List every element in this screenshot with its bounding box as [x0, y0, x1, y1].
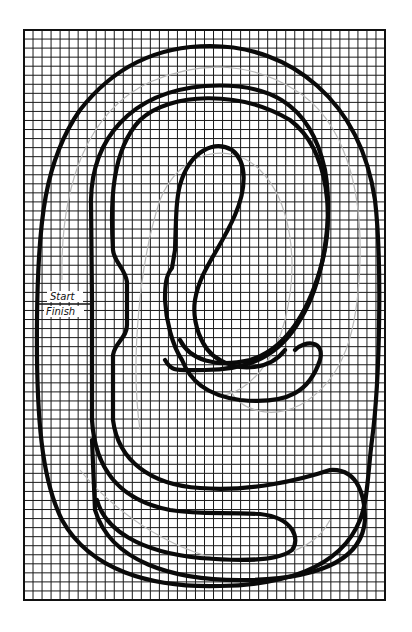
- race-track-diagram: Start Finish: [0, 0, 412, 632]
- start-label: Start: [50, 291, 76, 302]
- finish-label: Finish: [46, 306, 75, 317]
- start-finish-marker: Start Finish: [38, 291, 92, 317]
- track-inner-lane-divider: [92, 98, 365, 580]
- track-outer-edge: [37, 46, 379, 586]
